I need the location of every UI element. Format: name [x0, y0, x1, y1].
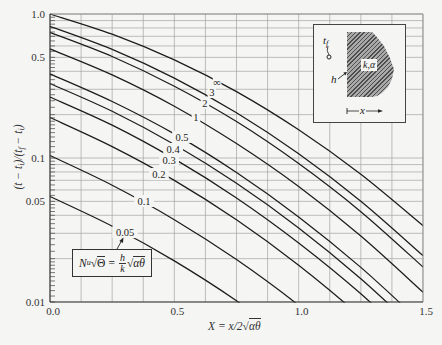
legend-pointer-arrow: [117, 238, 124, 250]
curve-label-text: 1: [193, 112, 198, 123]
x-tick-label: 0.0: [46, 305, 60, 317]
x-tick-label: 0.5: [170, 305, 184, 317]
curve-labels: ∞3210.50.40.30.20.10.05: [112, 76, 221, 238]
legend-h: h: [119, 253, 126, 264]
inset-diagram: tf h k,α x: [313, 24, 406, 123]
fluid-node-icon: [327, 55, 331, 59]
curve-label-text: 0.4: [167, 144, 181, 155]
y-tick-label: 0.1: [31, 152, 45, 164]
curve-label-text: 2: [202, 98, 207, 109]
legend-k: k: [120, 264, 124, 274]
x-tick-label: 1.5: [419, 305, 433, 317]
mask-right: [424, 0, 442, 345]
material-props-label: k,α: [361, 59, 377, 71]
curve-label: 0.2: [149, 168, 169, 180]
y-axis-label: (t − ti)/(tf − ti): [10, 97, 26, 217]
legend-fraction: hk: [119, 253, 126, 274]
curve-label-text: 3: [209, 87, 214, 98]
y-tick-label: 1.0: [31, 8, 45, 20]
x-dimension-label: x: [359, 104, 366, 116]
x-axis-label: X = x/2√αθ: [208, 320, 261, 333]
curve-label-text: 0.1: [137, 196, 150, 207]
curve-label: 1: [192, 111, 201, 123]
curve-label: 2: [201, 97, 210, 109]
fluid-temp-label: tf: [323, 34, 328, 46]
curve-label: 3: [208, 86, 217, 98]
curve-label-text: 0.3: [163, 155, 176, 166]
h-label: h: [331, 73, 337, 85]
curve-label-text: 0.5: [175, 132, 188, 143]
legend-theta: Θ: [97, 256, 105, 270]
curve-label-text: 0.2: [152, 169, 165, 180]
y-tick-label: 0.01: [26, 296, 45, 308]
h-arrow-shaft: [338, 74, 345, 80]
curve-label: 0.3: [159, 154, 179, 166]
arrow-shaft: [117, 241, 122, 249]
x-tick-label: 1.0: [295, 305, 309, 317]
legend-equals: =: [108, 257, 115, 269]
y-tick-label: 0.05: [26, 195, 46, 207]
x-arrow-head-icon: [378, 109, 383, 113]
curve-label: 0.5: [172, 131, 192, 143]
curve-label: 0.4: [163, 143, 183, 155]
curve-label: 0.05: [112, 226, 137, 238]
chart-figure: 1.00.50.10.050.010.00.51.01.5 ∞3210.50.4…: [0, 0, 442, 345]
y-tick-label: 0.5: [31, 51, 45, 63]
legend-box: Nu √Θ = hk √αθ: [72, 249, 152, 277]
curve-label: 0.1: [134, 195, 154, 207]
curve-label-text: 0.05: [116, 227, 134, 238]
legend-alpha-theta: αθ: [133, 256, 145, 270]
legend-n: N: [79, 257, 87, 269]
